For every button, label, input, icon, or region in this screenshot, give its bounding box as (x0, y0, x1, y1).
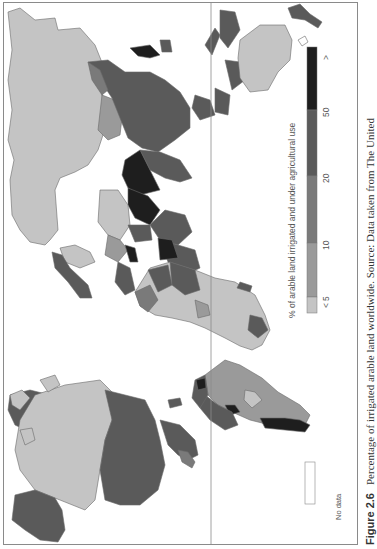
region-australia (238, 25, 292, 92)
legend-title: % of arable land irrigated and under agr… (287, 123, 297, 318)
region-russia (8, 8, 108, 245)
legend-swatch-lt5 (307, 297, 317, 313)
region-italy (125, 245, 138, 262)
region-europe-west (98, 190, 130, 240)
region-se-asia (192, 95, 215, 120)
region-indonesia-3 (215, 88, 230, 115)
region-usa (100, 390, 165, 505)
legend-swatch-10to20 (307, 176, 317, 243)
region-korea (160, 40, 172, 52)
legend-nodata-label: No data (334, 494, 343, 520)
legend-tick-10: 10 (321, 241, 331, 250)
region-new-guinea (288, 4, 322, 28)
map-figure: % of arable land irrigated and under agr… (0, 0, 377, 549)
region-turkey (128, 225, 152, 242)
legend-bar (307, 47, 317, 313)
legend-swatch-5to10 (307, 243, 317, 297)
legend-tick-gt: > (321, 55, 331, 60)
legend-nodata-swatch (305, 462, 315, 504)
region-cuba (168, 398, 182, 408)
region-venezuela (196, 378, 206, 390)
legend-swatch-20to50 (307, 110, 317, 176)
region-spain (115, 262, 135, 295)
figure-caption-text: Percentage of irrigated arable land worl… (364, 118, 376, 485)
world-map (0, 0, 377, 549)
region-philippines (205, 28, 220, 55)
legend-tick-50: 50 (321, 108, 331, 117)
legend-tick-5: 5 (321, 296, 331, 301)
region-japan (130, 45, 160, 58)
region-mexico (160, 420, 198, 460)
legend-swatch-gt50 (307, 47, 317, 110)
figure-caption: Figure 2.6Percentage of irrigated arable… (364, 118, 376, 545)
legend-tick-20: 20 (321, 174, 331, 183)
region-nz (298, 36, 308, 46)
legend-tick-lt: < (321, 303, 331, 308)
region-indonesia-1 (220, 10, 240, 48)
figure-label: Figure 2.6 (364, 493, 376, 545)
region-europe-central (105, 235, 128, 262)
